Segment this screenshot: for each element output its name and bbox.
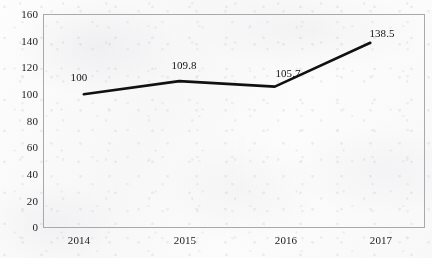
chart-page: 160 140 120 100 80 60 40 20 0 100 109.8 … (0, 0, 432, 258)
data-label: 138.5 (369, 27, 394, 39)
data-label: 105.7 (275, 67, 300, 79)
y-tick-label: 80 (2, 116, 38, 127)
x-tick-label: 2017 (370, 234, 392, 246)
x-tick-label: 2016 (275, 234, 297, 246)
y-tick-label: 60 (2, 142, 38, 153)
y-tick-label: 140 (2, 36, 38, 47)
y-tick-label: 120 (2, 62, 38, 73)
y-tick-label: 20 (2, 196, 38, 207)
y-axis-tick-labels: 160 140 120 100 80 60 40 20 0 (0, 0, 38, 258)
y-tick-label: 0 (2, 222, 38, 233)
y-tick-label: 100 (2, 89, 38, 100)
y-tick-label: 160 (2, 9, 38, 20)
plot-area-frame (43, 14, 425, 228)
x-tick-label: 2015 (174, 234, 196, 246)
y-tick-label: 40 (2, 169, 38, 180)
data-label: 100 (71, 71, 88, 83)
x-tick-label: 2014 (68, 234, 90, 246)
data-label: 109.8 (171, 59, 196, 71)
x-axis-tick-labels: 2014 2015 2016 2017 (0, 234, 432, 252)
